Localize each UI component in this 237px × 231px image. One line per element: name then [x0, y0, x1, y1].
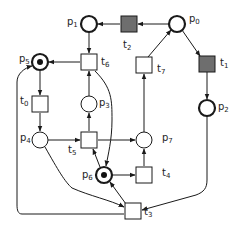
arc-t3-p6 [110, 182, 126, 204]
transition-t1 [199, 56, 215, 72]
arc-p0-t1 [182, 30, 200, 56]
label-p5: p5 [19, 54, 30, 64]
label-p3: p3 [99, 98, 110, 108]
token-p5 [37, 59, 43, 65]
arc-p2-t3 [142, 116, 207, 210]
transition-t2 [121, 16, 137, 32]
label-t3: t3 [144, 207, 152, 217]
label-p1: p1 [67, 17, 78, 27]
label-p2: p2 [218, 102, 229, 112]
place-p7 [136, 132, 152, 148]
label-t5: t5 [68, 145, 76, 155]
transition-t4 [136, 167, 152, 183]
label-p7: p7 [162, 133, 173, 143]
transition-t7 [136, 57, 152, 73]
label-p0: p0 [189, 14, 200, 24]
token-p6 [101, 172, 107, 178]
arc-p6-t5 [93, 149, 100, 167]
label-t4: t4 [162, 168, 170, 178]
place-p2 [199, 100, 215, 116]
petri-net-diagram: p0 p1 p2 p3 p4 p5 p6 p7 t0 t1 t2 t3 t4 t… [0, 0, 237, 231]
label-t2: t2 [123, 40, 131, 50]
arc-t6-p6 [95, 71, 112, 166]
petri-net-canvas [0, 0, 237, 231]
label-p6: p6 [82, 170, 93, 180]
label-t0: t0 [20, 96, 28, 106]
label-p4: p4 [20, 133, 31, 143]
place-p4 [32, 132, 48, 148]
label-t6: t6 [101, 57, 109, 67]
transition-t6 [81, 54, 97, 70]
place-p1 [81, 16, 97, 32]
place-p0 [169, 16, 185, 32]
transition-t5 [81, 132, 97, 148]
arcs [17, 24, 207, 214]
place-p3 [81, 96, 97, 112]
label-t1: t1 [220, 58, 228, 68]
label-t7: t7 [157, 64, 165, 74]
arc-t7-p0 [148, 30, 171, 57]
transition-t3 [125, 203, 141, 219]
transition-t0 [32, 96, 48, 112]
